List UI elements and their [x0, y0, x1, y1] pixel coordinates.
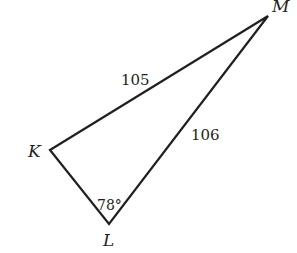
angle-label-l: 78°: [97, 197, 122, 213]
side-length-lm: 106: [191, 126, 220, 144]
triangle-diagram: M K L 105 106 78°: [0, 0, 297, 253]
vertex-label-k: K: [27, 141, 42, 161]
side-length-km: 105: [121, 71, 150, 89]
triangle-kml: [50, 16, 268, 224]
vertex-label-l: L: [102, 230, 114, 250]
vertex-label-m: M: [271, 0, 290, 16]
